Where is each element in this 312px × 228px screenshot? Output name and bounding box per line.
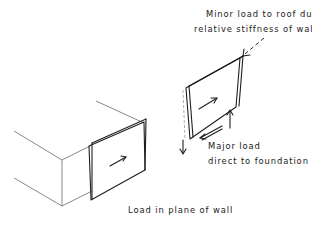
load-in-plane-diagram: Minor load to roof due to relative stiff…: [0, 0, 312, 228]
downward-arrow: [180, 140, 186, 154]
building-block: [14, 101, 144, 206]
uplift-arrow: [227, 110, 233, 128]
foundation-shear-arrow: [200, 126, 222, 140]
minor-load-label-line1: Minor load to roof due to: [206, 9, 312, 19]
major-load-label-line1: Major load: [208, 141, 261, 151]
building-wall-panel: [89, 119, 146, 200]
minor-load-label-line2: relative stiffness of wall: [194, 24, 312, 34]
roof-load-arrow: [243, 38, 264, 56]
in-plane-load-arrow-icon: [110, 156, 126, 166]
detached-wall-panel: [183, 56, 243, 140]
major-load-label-line2: direct to foundation: [208, 156, 309, 166]
panel-load-arrow-icon: [199, 98, 217, 109]
figure-caption: Load in plane of wall: [128, 205, 233, 215]
